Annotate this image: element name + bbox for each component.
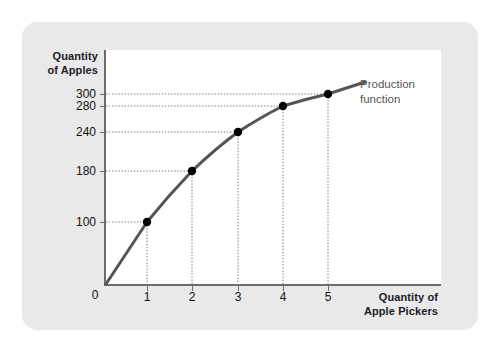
chart-graphics-overlay	[0, 0, 502, 352]
data-point-5	[324, 90, 332, 98]
production-function-annotation-line-1: Production	[360, 77, 456, 92]
production-function-annotation-line-2: function	[360, 92, 456, 107]
horizontal-gridlines	[106, 94, 328, 222]
figure-root: Quantity of Apples Quantity of Apple Pic…	[0, 0, 502, 352]
production-function-curve	[106, 82, 365, 284]
production-function-annotation: Production function	[360, 77, 456, 107]
data-point-1	[143, 218, 151, 226]
data-point-2	[188, 167, 196, 175]
data-point-4	[279, 102, 287, 110]
data-point-3	[234, 128, 242, 136]
